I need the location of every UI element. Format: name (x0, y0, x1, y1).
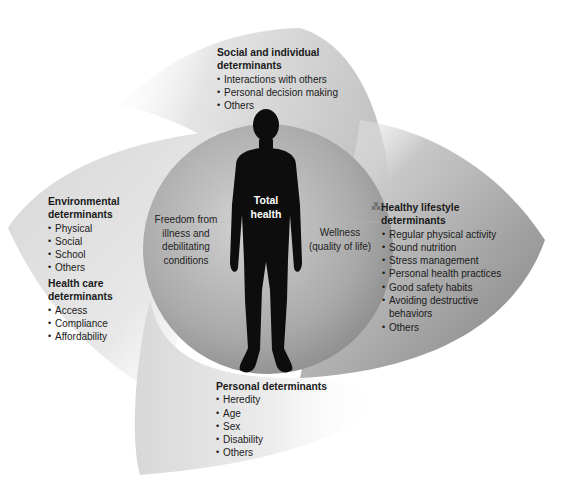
wellness-label: Wellness (quality of life) (300, 226, 380, 253)
list-item: Personal decision making (217, 86, 338, 99)
environmental-determinants-block: Environmental determinants Physical Soci… (48, 195, 120, 275)
list-item: Interactions with others (217, 73, 338, 86)
wellness-line-1: Wellness (300, 226, 380, 240)
list-item: Affordability (48, 330, 113, 343)
list-item: Age (216, 407, 327, 420)
personal-determinants-block: Personal determinants Heredity Age Sex D… (216, 380, 327, 460)
social-determinants-list: Interactions with others Personal decisi… (217, 73, 338, 113)
list-item: Avoiding destructive (382, 294, 501, 307)
list-item: Stress management (382, 254, 501, 267)
total-health-label: Total health (236, 194, 296, 221)
environmental-determinants-title: Environmental determinants (48, 195, 120, 222)
list-item: Personal health practices (382, 267, 501, 280)
wellness-line-2: (quality of life) (300, 240, 380, 254)
list-item-continuation: behaviors (382, 307, 501, 320)
health-care-determinants-title: Health care determinants (48, 277, 113, 304)
list-item: Heredity (216, 393, 327, 406)
list-item: School (48, 248, 120, 261)
lifestyle-determinants-block: Healthy lifestyle determinants Regular p… (381, 201, 501, 334)
environmental-title-line2: determinants (48, 208, 120, 221)
lifestyle-determinants-title: Healthy lifestyle determinants (381, 201, 501, 228)
list-item: Sound nutrition (382, 241, 501, 254)
health-care-determinants-list: Access Compliance Affordability (48, 304, 113, 344)
list-item: Regular physical activity (382, 228, 501, 241)
freedom-from-illness-label: Freedom from illness and debilitating co… (146, 213, 226, 267)
freedom-line-3: debilitating (146, 240, 226, 254)
freedom-line-4: conditions (146, 254, 226, 268)
sparkle-mark-icon: ⁂ (371, 201, 381, 212)
list-item: Compliance (48, 317, 113, 330)
total-health-line2: health (236, 208, 296, 222)
freedom-line-2: illness and (146, 227, 226, 241)
personal-determinants-title: Personal determinants (216, 380, 327, 393)
health-determinants-diagram: Total health Freedom from illness and de… (0, 0, 563, 489)
total-health-line1: Total (236, 194, 296, 208)
list-item: Others (48, 261, 120, 274)
list-item: Others (217, 99, 338, 112)
list-item: Sex (216, 420, 327, 433)
health-care-title-line1: Health care (48, 277, 113, 290)
list-item: Access (48, 304, 113, 317)
lifestyle-title-line2: determinants (381, 214, 501, 227)
health-care-title-line2: determinants (48, 290, 113, 303)
environmental-determinants-list: Physical Social School Others (48, 222, 120, 275)
personal-determinants-list: Heredity Age Sex Disability Others (216, 393, 327, 459)
freedom-line-1: Freedom from (146, 213, 226, 227)
list-item: Others (216, 446, 327, 459)
list-item: Good safety habits (382, 281, 501, 294)
lifestyle-determinants-list: Regular physical activity Sound nutritio… (381, 228, 501, 334)
health-care-determinants-block: Health care determinants Access Complian… (48, 277, 113, 343)
list-item: Social (48, 235, 120, 248)
list-item: Physical (48, 222, 120, 235)
lifestyle-title-line1: Healthy lifestyle (381, 201, 501, 214)
social-determinants-title: Social and individual determinants (217, 46, 338, 73)
list-item: Others (382, 321, 501, 334)
list-item: Disability (216, 433, 327, 446)
social-title-line1: Social and individual (217, 46, 338, 59)
social-title-line2: determinants (217, 59, 338, 72)
environmental-title-line1: Environmental (48, 195, 120, 208)
social-determinants-block: Social and individual determinants Inter… (217, 46, 338, 112)
